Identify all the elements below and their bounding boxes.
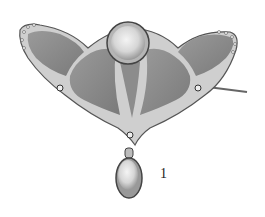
accent-stone-bottom	[127, 132, 133, 138]
accent-stone-left	[57, 85, 63, 91]
accent-stone-right	[195, 85, 201, 91]
drop-loop	[125, 148, 133, 158]
figure-number-label: 1	[160, 166, 167, 182]
brooch-photo	[0, 0, 265, 217]
